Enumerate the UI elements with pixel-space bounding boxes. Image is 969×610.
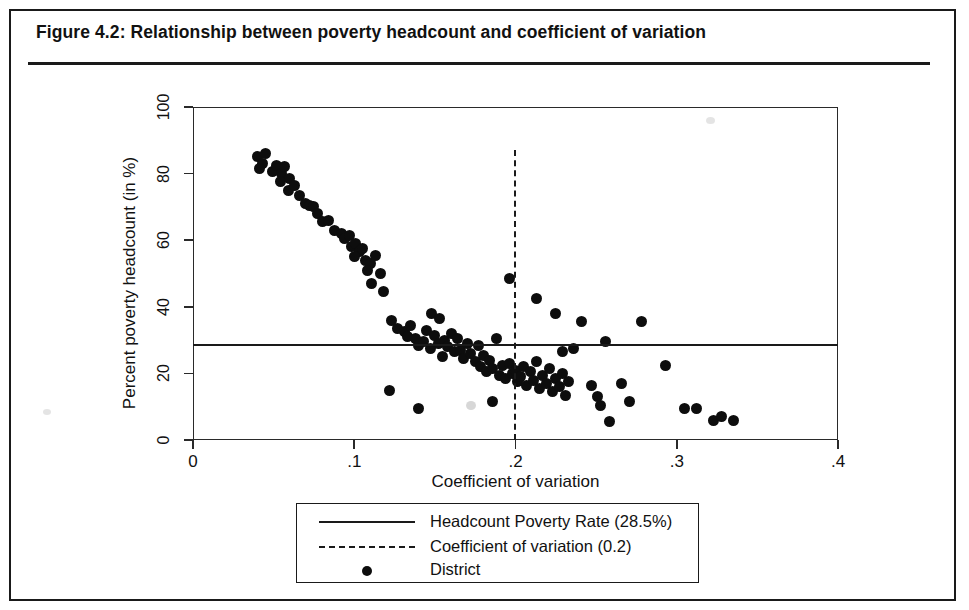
scatter-point [531,293,542,304]
scatter-point [384,385,395,396]
scatter-point [413,403,424,414]
y-tick-label: 0 [154,426,174,454]
y-tick-mark [184,306,193,308]
scatter-point [362,265,373,276]
x-tick-label: .1 [324,452,384,472]
scatter-point [370,250,381,261]
x-tick-mark [353,440,355,449]
legend-label-cov: Coefficient of variation (0.2) [430,537,631,556]
y-axis-title: Percent poverty headcount (in %) [120,118,140,448]
scatter-point [550,308,561,319]
y-tick-label: 100 [154,93,174,121]
x-tick-label: .2 [486,452,546,472]
y-tick-label: 40 [154,293,174,321]
scatter-point [624,396,635,407]
x-tick-mark [515,440,517,449]
y-tick-label: 80 [154,160,174,188]
scatter-point [716,411,727,422]
x-tick-mark [676,440,678,449]
scatter-point [437,351,448,362]
scatter-point [434,313,445,324]
scatter-point [323,215,334,226]
scatter-point [636,316,647,327]
legend-dashed-line-icon [313,535,418,560]
scatter-point [595,400,606,411]
x-tick-label: 0 [163,452,223,472]
x-tick-label: .3 [647,452,707,472]
scatter-point [254,163,265,174]
vertical-reference-line [514,150,516,440]
x-tick-mark [837,440,839,449]
scatter-point [679,403,690,414]
legend-label-headcount: Headcount Poverty Rate (28.5%) [430,512,672,531]
legend-solid-line-icon [313,510,418,535]
scatter-point [691,403,702,414]
legend-label-district: District [430,560,480,579]
y-tick-mark [184,173,193,175]
scatter-point [279,161,290,172]
scatter-point [728,415,739,426]
y-tick-mark [184,239,193,241]
y-tick-mark [184,106,193,108]
y-tick-label: 60 [154,226,174,254]
scan-artifact [706,117,715,124]
legend-item-district: District [297,558,700,583]
legend-filled-circle-icon [313,558,418,583]
scatter-point [260,148,271,159]
scatter-point [660,360,671,371]
scatter-point [375,268,386,279]
chart-legend: Headcount Poverty Rate (28.5%) Coefficie… [296,503,699,583]
scatter-point [560,390,571,401]
y-tick-mark [184,373,193,375]
scatter-point [405,320,416,331]
scatter-point [563,376,574,387]
figure-root: Figure 4.2: Relationship between poverty… [0,0,969,610]
scatter-point [366,278,377,289]
scatter-point [491,333,502,344]
scan-artifact [43,409,51,415]
scatter-point [487,396,498,407]
scatter-point [349,251,360,262]
scatter-point [557,346,568,357]
scatter-point [616,378,627,389]
x-tick-mark [192,440,194,449]
legend-item-headcount: Headcount Poverty Rate (28.5%) [297,510,700,535]
scatter-point [604,416,615,427]
y-tick-label: 20 [154,359,174,387]
scatter-point [586,380,597,391]
x-axis-title: Coefficient of variation [193,472,838,492]
legend-item-cov: Coefficient of variation (0.2) [297,535,700,560]
scan-artifact [466,401,476,410]
scatter-point [531,356,542,367]
scatter-point [576,316,587,327]
scatter-point [378,286,389,297]
x-tick-label: .4 [808,452,868,472]
scatter-point [504,273,515,284]
